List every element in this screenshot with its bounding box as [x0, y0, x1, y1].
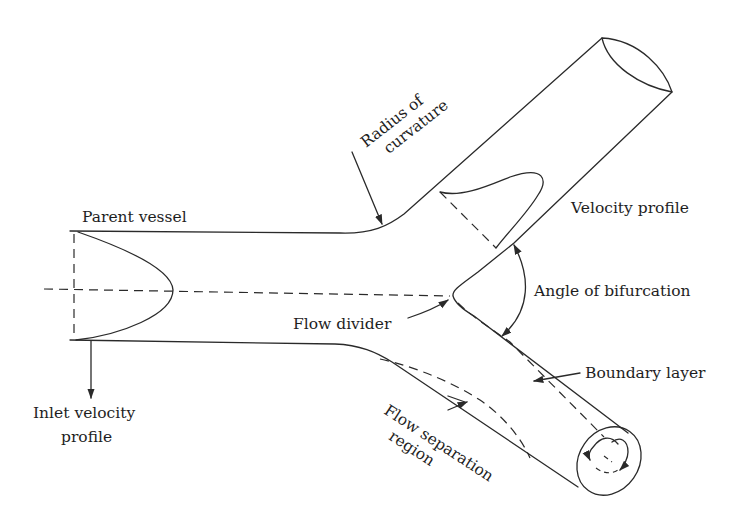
centerline [44, 289, 450, 296]
annotation-arrows [91, 152, 580, 410]
label-inlet-velocity-profile: Inlet velocity profile [33, 404, 135, 446]
label-flow-divider: Flow divider [293, 315, 392, 333]
parent-vessel-bottom-wall [70, 340, 578, 487]
label-flow-separation-region: Flow separation region [370, 401, 496, 501]
label-velocity-profile: Velocity profile [570, 199, 689, 217]
svg-text:profile: profile [61, 428, 112, 446]
upper-branch-opening [602, 38, 672, 92]
branch-velocity-profile [440, 173, 543, 248]
branch-section-line [440, 192, 496, 248]
bifurcation-diagram: Parent vessel Radius of curvature Veloci… [0, 0, 755, 523]
inlet-parabola [76, 232, 173, 340]
label-angle-of-bifurcation: Angle of bifurcation [533, 282, 691, 300]
inlet-velocity-profile [74, 232, 173, 340]
secondary-flow-vortex-icon [589, 438, 628, 473]
label-boundary-layer: Boundary layer [585, 364, 706, 382]
angle-arc [502, 245, 525, 336]
label-radius-of-curvature: Radius of curvature [357, 81, 451, 166]
vessel-outline [70, 38, 672, 508]
boundary-layer-line [458, 303, 604, 437]
parent-vessel-top-wall [70, 38, 602, 233]
svg-text:Inlet velocity: Inlet velocity [33, 404, 135, 422]
label-parent-vessel: Parent vessel [82, 208, 187, 226]
radius-arrow [352, 152, 382, 224]
lower-branch-opening [564, 414, 654, 507]
flow-divider-arrow [408, 300, 448, 318]
skewed-profile-curve [440, 173, 543, 248]
flow-separation-arrow [448, 402, 467, 410]
